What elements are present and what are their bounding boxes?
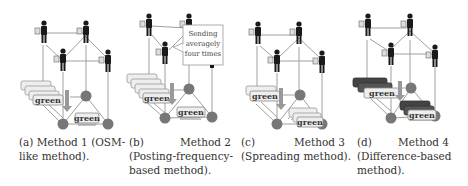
person-icon — [382, 42, 394, 65]
caption-b: (b) Method 2 (Posting-frequency- based m… — [129, 135, 231, 177]
diagram-method-1: green green — [0, 0, 117, 135]
svg-text:green: green — [297, 117, 323, 127]
svg-text:green: green — [178, 107, 204, 117]
diagram-method-2: Sending averagely four times green green — [117, 0, 234, 135]
subfigure-d: green green (d) Method 4 (Difference-bas… — [351, 0, 468, 186]
box-label: green — [369, 88, 395, 98]
person-icon — [99, 49, 111, 72]
callout-bubble: Sending averagely four times — [173, 25, 223, 68]
svg-text:Sending: Sending — [188, 30, 218, 38]
subfigure-c: green green (c) Method 3 (Spreading meth… — [234, 0, 351, 186]
box-label: green — [35, 95, 61, 105]
message-box: green — [177, 107, 205, 119]
message-stack: green — [127, 74, 171, 103]
caption-d: (d) Method 4 (Difference-based method). — [357, 135, 449, 177]
person-icon — [77, 20, 89, 43]
person-icon — [140, 13, 152, 36]
person-icon — [268, 49, 280, 72]
message-box: green — [74, 113, 100, 125]
message-stack-dark: green — [353, 78, 400, 98]
box-label: green — [144, 93, 170, 103]
subfigure-b: Sending averagely four times green green — [117, 0, 234, 186]
svg-text:green: green — [409, 110, 435, 120]
diagram-method-4: green green — [351, 0, 468, 135]
svg-text:four times: four times — [185, 50, 222, 58]
message-stack: green — [246, 86, 280, 101]
edges — [42, 33, 108, 124]
caption-c: (c) Method 3 (Spreading method). — [241, 135, 349, 163]
box-label: green — [252, 91, 278, 101]
person-icon — [359, 13, 371, 36]
person-icon — [35, 20, 47, 43]
person-icon — [249, 21, 261, 44]
caption-a: (a) Method 1 (OSM- like method). — [19, 135, 121, 163]
subfigure-a: green green (a) Method 1 (OSM- like meth… — [0, 0, 117, 186]
message-stack: green — [21, 81, 63, 105]
svg-text:green: green — [74, 113, 100, 123]
svg-text:averagely: averagely — [186, 40, 221, 48]
person-icon — [401, 13, 413, 36]
person-icon — [156, 41, 168, 64]
person-icon — [54, 48, 66, 71]
diagram-method-3: green green — [234, 0, 351, 135]
person-icon — [313, 50, 325, 73]
